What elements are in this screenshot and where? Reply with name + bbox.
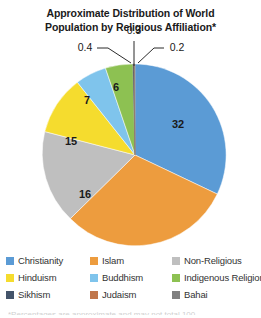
legend-item-islam[interactable]: Islam [90,252,172,269]
legend-label: Bahai [184,289,208,300]
legend-swatch-icon [90,274,98,282]
callout-line-sikhism [97,48,131,63]
pie-slices [42,64,226,246]
legend-label: Christianity [18,255,63,266]
pie-label-christianity: 32 [172,118,184,130]
pie-label-indigenous-religions: 6 [113,81,119,93]
legend-row: Sikhism Judaism Bahai [6,286,258,303]
legend-label: Indigenous Religions [184,272,261,283]
legend-item-christianity[interactable]: Christianity [6,252,90,269]
legend-item-non-religious[interactable]: Non-Religious [172,252,258,269]
callout-line-bahai [138,48,164,63]
legend-label: Sikhism [18,289,50,300]
legend-item-sikhism[interactable]: Sikhism [6,286,90,303]
legend-label: Islam [102,255,124,266]
pie-plot-area: 32 16 15 7 6 0.4 0.3 0.2 [0,0,261,252]
pie-label-hinduism: 15 [65,135,77,147]
legend-swatch-icon [6,291,14,299]
pie-callout-judaism: 0.3 [127,24,142,36]
pie-svg: 32 16 15 7 6 0.4 0.3 0.2 [0,0,261,252]
legend-swatch-icon [6,257,14,265]
pie-callout-bahai: 0.2 [170,41,185,53]
legend-item-buddhism[interactable]: Buddhism [90,269,172,286]
legend-row: Hinduism Buddhism Indigenous Religions [6,269,258,286]
footnote-clipped: *Percentages are approximate and may not… [8,310,252,315]
legend-swatch-icon [172,291,180,299]
legend-item-indigenous-religions[interactable]: Indigenous Religions [172,269,258,286]
legend-item-hinduism[interactable]: Hinduism [6,269,90,286]
pie-chart-figure: Approximate Distribution of World Popula… [0,0,261,318]
legend-label: Judaism [102,289,136,300]
legend-swatch-icon [6,274,14,282]
legend-row: Christianity Islam Non-Religious [6,252,258,269]
legend-label: Hinduism [18,272,56,283]
legend-swatch-icon [90,257,98,265]
legend-item-judaism[interactable]: Judaism [90,286,172,303]
legend-label: Non-Religious [184,255,242,266]
legend-swatch-icon [172,274,180,282]
chart-legend: Christianity Islam Non-Religious Hinduis… [6,252,258,308]
legend-swatch-icon [172,257,180,265]
pie-callout-labels: 0.4 0.3 0.2 [78,24,185,53]
pie-callout-lines [97,41,164,66]
legend-label: Buddhism [102,272,143,283]
legend-swatch-icon [90,291,98,299]
pie-callout-sikhism: 0.4 [78,41,93,53]
legend-item-bahai[interactable]: Bahai [172,286,258,303]
pie-label-non-religious: 16 [79,188,91,200]
pie-label-buddhism: 7 [84,94,90,106]
